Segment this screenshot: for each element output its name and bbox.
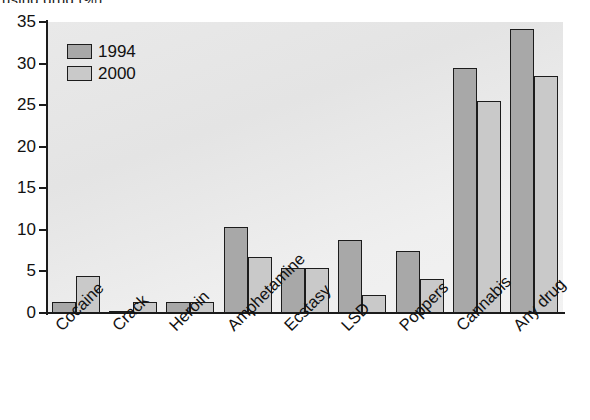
bar-ecstasy-2000 (305, 268, 329, 313)
legend-swatch-1994 (67, 44, 92, 59)
bar-cannabis-1994 (453, 68, 477, 313)
y-tick-label: 0 (2, 304, 36, 321)
bar-any-drug-1994 (510, 29, 534, 313)
legend-swatch-2000 (67, 66, 92, 81)
bar-cannabis-2000 (477, 101, 501, 313)
legend: 1994 2000 (67, 41, 136, 85)
figure-title-clipped: using drug (%) (2, 0, 102, 3)
legend-label-2000: 2000 (98, 65, 136, 82)
y-tick-mark (39, 312, 47, 314)
y-tick-mark (39, 270, 47, 272)
y-tick-label: 5 (2, 262, 36, 279)
y-tick-label: 35 (2, 13, 36, 30)
y-tick-label: 15 (2, 179, 36, 196)
bar-crack-1994 (109, 311, 133, 313)
bar-amphetamine-1994 (224, 227, 248, 313)
bar-cocaine-2000 (76, 276, 100, 313)
bar-heroin-2000 (190, 302, 214, 313)
y-tick-label: 30 (2, 55, 36, 72)
bar-lsd-2000 (362, 295, 386, 313)
bar-poppers-2000 (420, 279, 444, 313)
y-tick-label: 20 (2, 138, 36, 155)
y-tick-mark (39, 21, 47, 23)
chart-figure: using drug (%) 35302520151050 CocaineCra… (0, 0, 590, 420)
legend-item: 1994 (67, 41, 136, 61)
bar-poppers-1994 (396, 251, 420, 313)
y-tick-label: 10 (2, 221, 36, 238)
y-tick-mark (39, 63, 47, 65)
bar-any-drug-2000 (534, 76, 558, 313)
y-tick-mark (39, 229, 47, 231)
y-tick-mark (39, 187, 47, 189)
legend-item: 2000 (67, 63, 136, 83)
bar-heroin-1994 (166, 302, 190, 313)
bar-ecstasy-1994 (281, 268, 305, 313)
y-tick-label: 25 (2, 96, 36, 113)
y-tick-mark (39, 146, 47, 148)
bar-cocaine-1994 (52, 302, 76, 313)
legend-label-1994: 1994 (98, 43, 136, 60)
y-tick-mark (39, 104, 47, 106)
bar-lsd-1994 (338, 240, 362, 313)
bar-amphetamine-2000 (248, 257, 272, 313)
bar-crack-2000 (133, 302, 157, 313)
